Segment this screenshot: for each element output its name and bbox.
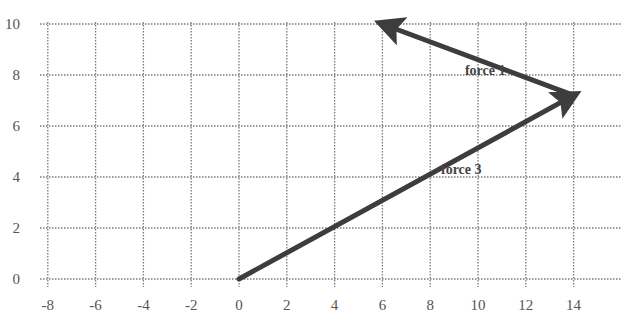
x-tick-label: 0 (235, 297, 243, 313)
x-tick-label: 12 (518, 297, 533, 313)
x-tick-label: 8 (426, 297, 434, 313)
x-tick-label: -8 (42, 297, 55, 313)
y-tick-label: 8 (13, 67, 21, 83)
force-1-label: force 1 (465, 63, 506, 78)
x-tick-label: -6 (89, 297, 102, 313)
x-tick-label: -4 (137, 297, 150, 313)
y-tick-label: 0 (13, 271, 21, 287)
force-3-label: force 3 (441, 162, 482, 177)
force-vector-diagram: 0246810-8-6-4-202468101214 force 3force … (0, 0, 634, 329)
force-3-arrow (239, 95, 574, 279)
y-tick-label: 10 (5, 16, 20, 32)
x-tick-label: 2 (283, 297, 291, 313)
x-tick-label: 6 (379, 297, 387, 313)
x-tick-label: -2 (185, 297, 198, 313)
grid (40, 22, 622, 287)
force-vectors (239, 24, 574, 279)
x-tick-label: 14 (566, 297, 582, 313)
y-tick-label: 4 (13, 169, 21, 185)
x-tick-label: 4 (331, 297, 339, 313)
x-tick-label: 10 (471, 297, 486, 313)
y-tick-label: 2 (13, 220, 21, 236)
y-tick-label: 6 (13, 118, 21, 134)
axis-ticks: 0246810-8-6-4-202468101214 (5, 16, 582, 313)
